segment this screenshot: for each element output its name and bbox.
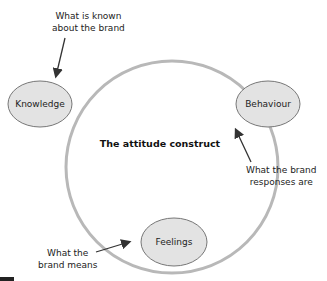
diagram-title: The attitude construct (100, 138, 220, 149)
annotation-feelings: What the brand means (38, 247, 97, 271)
annotation-behaviour: What the brand responses are (246, 164, 316, 188)
corner-mark (0, 277, 14, 281)
annotation-knowledge: What is known about the brand (52, 10, 125, 34)
node-feelings-label: Feelings (156, 237, 193, 247)
node-knowledge-label: Knowledge (15, 99, 64, 109)
arrow-knowledge (56, 38, 65, 76)
arrow-behaviour (236, 130, 251, 162)
node-behaviour-label: Behaviour (245, 99, 291, 109)
